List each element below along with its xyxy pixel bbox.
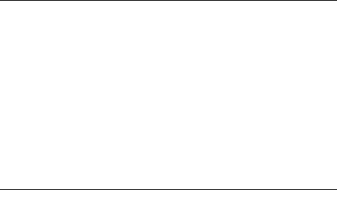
chart-figure	[0, 0, 337, 222]
x-axis	[207, 190, 295, 222]
bar-chart-table	[0, 0, 337, 190]
